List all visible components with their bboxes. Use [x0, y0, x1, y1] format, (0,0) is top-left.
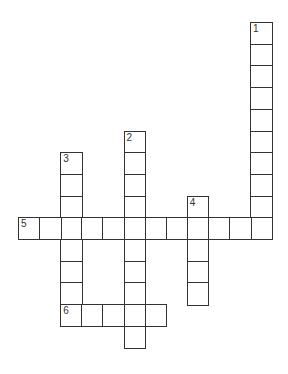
clue-number: 5	[21, 218, 27, 229]
crossword-cell[interactable]	[250, 217, 273, 240]
crossword-cell[interactable]	[166, 217, 189, 240]
crossword-cell[interactable]	[60, 196, 83, 219]
clue-number: 1	[253, 23, 259, 34]
crossword-cell[interactable]	[187, 282, 210, 305]
clue-number: 4	[190, 197, 196, 208]
crossword-cell[interactable]	[145, 217, 168, 240]
crossword-cell[interactable]	[250, 65, 273, 88]
crossword-cell[interactable]	[102, 304, 125, 327]
crossword-cell[interactable]: 1	[250, 22, 273, 45]
clue-number: 6	[63, 305, 69, 316]
crossword-cell[interactable]	[250, 87, 273, 110]
crossword-cell[interactable]	[124, 239, 147, 262]
crossword-cell[interactable]	[145, 304, 168, 327]
crossword-cell[interactable]	[60, 239, 83, 262]
crossword-cell[interactable]	[250, 152, 273, 175]
crossword-cell[interactable]	[60, 282, 83, 305]
crossword-cell[interactable]	[124, 304, 147, 327]
crossword-cell[interactable]	[124, 196, 147, 219]
crossword-cell[interactable]: 3	[60, 152, 83, 175]
clue-number: 3	[63, 153, 69, 164]
crossword-cell[interactable]	[60, 217, 83, 240]
crossword-cell[interactable]	[81, 304, 104, 327]
crossword-cell[interactable]	[60, 261, 83, 284]
crossword-cell[interactable]	[187, 239, 210, 262]
crossword-cell[interactable]	[187, 261, 210, 284]
crossword-cell[interactable]	[39, 217, 62, 240]
crossword-cell[interactable]	[124, 152, 147, 175]
crossword-cell[interactable]	[60, 174, 83, 197]
crossword-cell[interactable]	[250, 109, 273, 132]
crossword-cell[interactable]	[124, 326, 147, 349]
crossword-cell[interactable]	[250, 174, 273, 197]
crossword-grid: 123645	[0, 0, 288, 374]
crossword-cell[interactable]: 2	[124, 131, 147, 154]
crossword-cell[interactable]	[124, 217, 147, 240]
crossword-cell[interactable]	[250, 196, 273, 219]
crossword-cell[interactable]: 6	[60, 304, 83, 327]
crossword-cell[interactable]	[250, 44, 273, 67]
crossword-cell[interactable]	[124, 282, 147, 305]
crossword-cell[interactable]	[102, 217, 125, 240]
crossword-cell[interactable]	[187, 217, 210, 240]
crossword-cell[interactable]	[124, 261, 147, 284]
crossword-cell[interactable]: 5	[18, 217, 41, 240]
crossword-cell[interactable]	[208, 217, 231, 240]
crossword-cell[interactable]	[81, 217, 104, 240]
crossword-cell[interactable]	[250, 131, 273, 154]
crossword-cell[interactable]	[229, 217, 252, 240]
crossword-cell[interactable]	[124, 174, 147, 197]
clue-number: 2	[127, 132, 133, 143]
crossword-cell[interactable]: 4	[187, 196, 210, 219]
